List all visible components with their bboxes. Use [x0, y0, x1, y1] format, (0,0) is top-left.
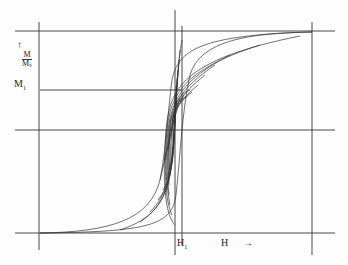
hysteresis-curves	[40, 32, 312, 233]
m1-label-main: M	[14, 78, 23, 89]
y-axis-arrow: ↑	[17, 40, 22, 50]
diagram-canvas	[0, 0, 348, 265]
y-axis-label-fraction: M Mₛ	[22, 51, 32, 68]
m1-label-sub: 1	[23, 85, 26, 91]
h-axis-arrow: →	[243, 238, 253, 248]
h1-label-sub: 1	[184, 244, 187, 250]
y-axis-denominator: Mₛ	[22, 60, 32, 68]
m1-label: M1	[14, 79, 26, 91]
h-axis-label: H	[221, 238, 228, 248]
hysteresis-diagram: ↑ M Mₛ M1 H1 H →	[0, 0, 348, 265]
h1-label: H1	[177, 238, 187, 250]
